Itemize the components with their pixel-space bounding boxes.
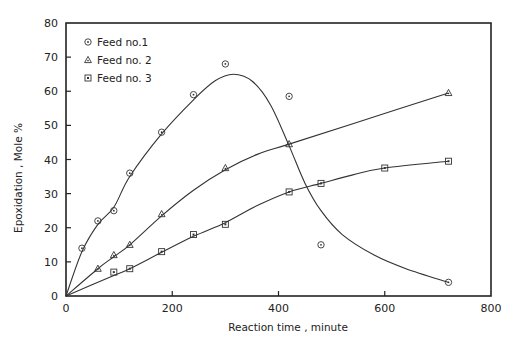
legend-label: Feed no. 2 [97, 54, 152, 66]
marker-center-dot [320, 182, 322, 184]
y-tick-label: 20 [44, 222, 58, 235]
marker-center-dot [129, 172, 131, 174]
y-tick-label: 60 [44, 85, 58, 98]
marker-center-dot [97, 220, 99, 222]
legend-item-feed-2: Feed no. 2 [85, 54, 152, 66]
y-tick-label: 50 [44, 119, 58, 132]
x-tick-label: 400 [268, 302, 289, 315]
marker-center-dot [161, 251, 163, 253]
x-tick-label: 200 [162, 302, 183, 315]
marker-center-dot [193, 234, 195, 236]
marker-center-dot [81, 247, 83, 249]
marker-center-dot [384, 167, 386, 169]
marker-center-dot [448, 281, 450, 283]
marker-center-dot [288, 144, 290, 146]
legend-marker [85, 39, 91, 45]
legend-item-feed-1: Feed no.1 [85, 36, 149, 48]
marker-center-dot [129, 245, 131, 247]
data-point-feed-2 [445, 89, 452, 95]
marker-center-dot [113, 271, 115, 273]
data-point-feed-1 [318, 242, 324, 248]
marker-center-dot [320, 244, 322, 246]
legend: Feed no.1Feed no. 2Feed no. 3 [85, 36, 152, 84]
legend-label: Feed no.1 [97, 36, 148, 48]
fit-curve-feed-1 [66, 74, 449, 296]
marker-center-dot [161, 214, 163, 216]
marker-center-dot [113, 210, 115, 212]
marker-center-dot [87, 77, 89, 79]
marker-center-dot [448, 160, 450, 162]
marker-center-dot [288, 191, 290, 193]
data-point-feed-1 [445, 279, 451, 285]
x-tick-label: 0 [63, 302, 70, 315]
data-point-feed-3 [286, 189, 292, 195]
marker-center-dot [113, 255, 115, 257]
marker-center-dot [129, 268, 131, 270]
marker-center-dot [448, 93, 450, 95]
marker-center-dot [161, 131, 163, 133]
fit-curve-feed-3 [66, 161, 449, 296]
data-markers [79, 61, 452, 286]
data-point-feed-3 [127, 266, 133, 272]
y-tick-label: 30 [44, 188, 58, 201]
marker-center-dot [224, 63, 226, 65]
marker-center-dot [224, 223, 226, 225]
marker-center-dot [87, 41, 89, 43]
legend-marker [85, 75, 91, 81]
marker-center-dot [193, 94, 195, 96]
fit-curve-feed-2 [66, 93, 449, 296]
triangle-marker-icon [445, 89, 452, 95]
legend-marker [85, 56, 92, 62]
x-axis-title: Reaction time , minute [228, 321, 348, 333]
y-axis-title: Epoxidation , Mole % [12, 123, 24, 233]
data-point-feed-1 [286, 93, 292, 99]
legend-label: Feed no. 3 [97, 72, 152, 84]
fit-curves [66, 74, 449, 296]
x-tick-label: 800 [481, 302, 502, 315]
x-tick-label: 600 [374, 302, 395, 315]
marker-center-dot [87, 60, 89, 62]
data-point-feed-1 [222, 61, 228, 67]
chart: 020040060080001020304050607080 Feed no.1… [0, 0, 517, 350]
y-tick-label: 80 [44, 17, 58, 30]
y-tick-label: 40 [44, 154, 58, 167]
marker-center-dot [225, 168, 227, 170]
triangle-marker-icon [85, 56, 92, 62]
y-tick-label: 70 [44, 51, 58, 64]
y-tick-label: 0 [51, 290, 58, 303]
marker-center-dot [97, 269, 99, 271]
legend-item-feed-3: Feed no. 3 [85, 72, 152, 84]
marker-center-dot [288, 95, 290, 97]
data-point-feed-1 [190, 91, 196, 97]
y-tick-label: 10 [44, 256, 58, 269]
